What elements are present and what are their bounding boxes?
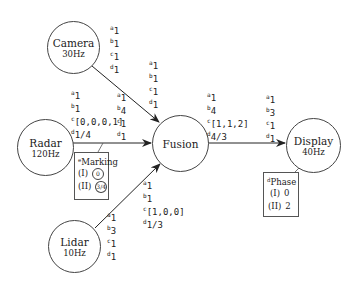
marking-row-1: (I) 0 [78,167,105,180]
node-camera-rate: 30Hz [62,49,85,59]
node-radar-rate: 120Hz [31,149,59,159]
phase-box: dPhase (I) 0 (II) 2 [263,172,299,217]
node-lidar-rate: 10Hz [63,248,86,258]
label-lidar-out: a1 b3 c1 d1 [107,210,116,262]
marking-connector [98,143,103,152]
node-display-name: Display [294,135,333,147]
marking-token: 0 [92,168,104,180]
node-display-rate: 40Hz [302,147,325,157]
label-lidar-in-fusion: a1 b1 c[1,0,0] d1/3 [143,178,185,230]
node-camera-name: Camera [53,37,95,49]
phase-row-2: (II) 2 [267,200,295,213]
node-lidar-name: Lidar [60,236,88,248]
label-camera-in-fusion: a1 b1 c1 d1 [149,58,158,110]
phase-row-1: (I) 0 [267,187,295,200]
label-fusion-out: a1 b4 c[1,1,2] d4/3 [207,90,249,142]
node-radar[interactable]: Radar 120Hz [17,119,74,176]
node-fusion-name: Fusion [163,138,199,150]
node-lidar[interactable]: Lidar 10Hz [48,220,101,273]
marking-row-2: (II) 3/4 [78,180,105,193]
label-radar-out: a1 b1 c[0,0,0,1] d1/4 [71,88,123,140]
label-display-in: a1 b3 c1 d1 [266,92,275,144]
phase-title: dPhase [267,175,295,187]
node-radar-name: Radar [29,137,61,149]
marking-box: eMarking (I) 0 (II) 3/4 [74,152,109,200]
label-radar-in-fusion: a1 b4 c1 d1 [117,90,126,142]
node-display[interactable]: Display 40Hz [286,118,341,173]
label-camera-out: a1 b1 c1 d1 [110,23,119,75]
node-fusion[interactable]: Fusion [152,115,209,172]
node-camera[interactable]: Camera 30Hz [47,21,100,74]
marking-title: eMarking [78,155,105,167]
marking-token: 3/4 [95,181,107,193]
